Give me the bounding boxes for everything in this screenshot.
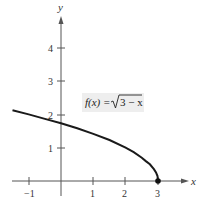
x-axis-arrow-icon [181, 179, 189, 184]
y-axis-arrow-icon [59, 16, 64, 24]
y-tick-label: 3 [48, 76, 53, 87]
x-tick-label: −1 [24, 188, 35, 199]
function-radicand: 3 − x [120, 96, 143, 108]
y-axis-label: y [57, 1, 63, 13]
function-curve [13, 110, 159, 181]
function-graph: x y −1 1 2 3 1 2 3 4 f(x) = 3 − x [0, 0, 199, 206]
x-tick-label: 2 [122, 188, 127, 199]
x-axis-label: x [190, 175, 196, 187]
function-label: f(x) = [85, 96, 110, 109]
y-tick-label: 1 [48, 143, 53, 154]
x-tick-label: 3 [155, 188, 160, 199]
endpoint-dot [155, 178, 161, 184]
x-tick-label: 1 [90, 188, 95, 199]
y-tick-label: 4 [48, 43, 53, 54]
